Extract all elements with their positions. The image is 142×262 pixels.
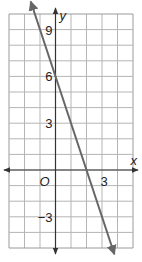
y-axis-label: y bbox=[59, 8, 68, 23]
x-tick-label: 3 bbox=[100, 174, 107, 189]
coordinate-plane: 963−33Oxy bbox=[0, 0, 142, 262]
x-axis-label: x bbox=[130, 153, 138, 168]
y-tick-label: 9 bbox=[45, 23, 52, 38]
y-tick-label: −3 bbox=[38, 210, 53, 225]
y-tick-label: 3 bbox=[45, 116, 52, 131]
tick-labels: 963−33Oxy bbox=[38, 8, 138, 225]
y-tick-label: 6 bbox=[45, 69, 52, 84]
origin-label: O bbox=[39, 174, 49, 189]
grid-lines bbox=[9, 14, 133, 248]
